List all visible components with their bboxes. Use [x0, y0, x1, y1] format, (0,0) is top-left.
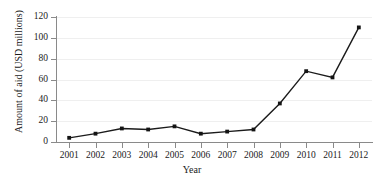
aid-line-series	[69, 27, 359, 137]
data-point-marker	[225, 130, 229, 134]
aid-data-markers	[67, 26, 360, 140]
data-point-marker	[331, 76, 335, 80]
x-axis-title: Year	[0, 164, 384, 175]
data-point-marker	[173, 124, 177, 128]
data-point-marker	[67, 136, 71, 140]
data-point-marker	[120, 127, 124, 131]
chart-figure: Amount of aid (USD millions) 02040608010…	[0, 0, 384, 185]
data-point-marker	[146, 128, 150, 132]
data-point-marker	[199, 132, 203, 136]
data-point-marker	[304, 69, 308, 73]
data-point-marker	[357, 26, 361, 30]
data-point-marker	[252, 128, 256, 132]
data-point-marker	[278, 102, 282, 106]
data-series-layer	[0, 0, 384, 185]
data-point-marker	[94, 132, 98, 136]
